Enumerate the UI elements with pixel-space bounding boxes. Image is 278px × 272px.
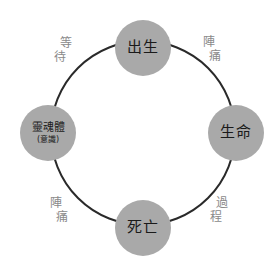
edge-label-left-top: 等 待 [54,36,72,64]
edge-label-char: 程 [210,210,228,224]
node-life-label: 生命 [220,125,252,141]
node-spirit-label: 靈魂體 [32,122,65,134]
node-birth-label: 出生 [127,40,159,56]
edge-label-char: 陣 [50,196,68,210]
edge-label-char: 痛 [56,210,68,224]
node-spirit-sublabel: (意識) [37,136,59,144]
node-life: 生命 [208,105,264,161]
node-death: 死亡 [115,200,171,256]
node-death-label: 死亡 [127,220,159,236]
edge-label-char: 待 [54,50,72,64]
edge-label-char: 等 [60,36,72,50]
cycle-diagram: 出生 生命 死亡 靈魂體 (意識) 陣 痛 過 程 陣 痛 等 待 [0,0,278,272]
edge-label-top-right: 陣 痛 [203,35,221,63]
edge-label-char: 痛 [209,49,221,63]
edge-label-char: 過 [216,196,228,210]
edge-label-bottom-left: 陣 痛 [50,196,68,224]
edge-label-right-bottom: 過 程 [210,196,228,224]
edge-label-char: 陣 [203,35,221,49]
node-spirit: 靈魂體 (意識) [20,105,76,161]
node-birth: 出生 [115,20,171,76]
